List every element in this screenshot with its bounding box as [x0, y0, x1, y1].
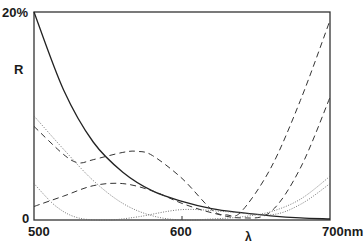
curve-dotted-1 — [34, 116, 330, 220]
x-tick-600: 600 — [170, 224, 192, 239]
x-axis-label: λ — [245, 230, 252, 244]
y-tick-top: 20% — [2, 5, 28, 20]
x-tick-500: 500 — [28, 224, 50, 239]
reflectance-plot — [0, 0, 364, 244]
curve-dashed-lower-hump — [34, 97, 330, 218]
curves — [34, 12, 330, 220]
y-axis-label: R — [14, 62, 23, 77]
plot-frame — [34, 12, 330, 220]
curve-solid — [34, 12, 330, 219]
x-tick-700: 700nm — [322, 224, 363, 239]
